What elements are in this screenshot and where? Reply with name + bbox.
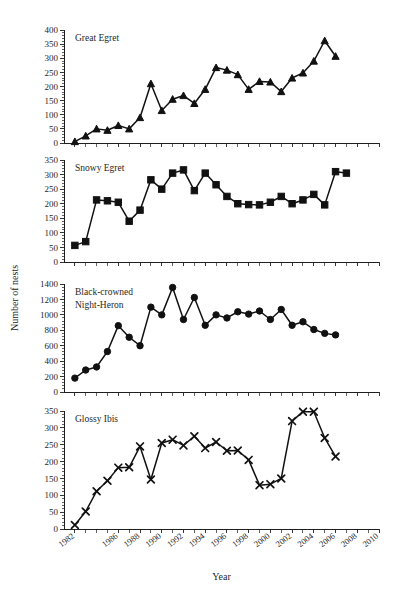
data-point-marker xyxy=(104,348,110,354)
data-point-marker xyxy=(136,114,143,121)
y-tick-label: 100 xyxy=(45,228,59,238)
data-point-marker xyxy=(256,308,262,314)
data-point-marker xyxy=(289,74,296,81)
data-point-marker xyxy=(213,312,219,318)
data-point-marker xyxy=(245,311,251,317)
data-point-marker xyxy=(169,170,175,176)
data-point-marker xyxy=(126,334,132,340)
y-axis-title: Number of nests xyxy=(9,265,20,331)
y-tick-label: 350 xyxy=(45,39,59,49)
panel-title-line2: Night-Heron xyxy=(75,300,124,310)
series-line xyxy=(75,170,347,245)
data-point-marker xyxy=(115,322,121,328)
data-point-marker xyxy=(311,191,317,197)
panel-axes xyxy=(64,30,379,143)
data-point-marker xyxy=(213,182,219,188)
data-point-marker xyxy=(82,132,89,139)
y-tick-label: 350 xyxy=(45,155,59,165)
y-tick-label: 200 xyxy=(45,457,59,467)
x-tick-label: 2004 xyxy=(295,530,315,549)
y-tick-label: 300 xyxy=(45,423,59,433)
y-tick-label: 150 xyxy=(45,96,59,106)
y-tick-label: 1400 xyxy=(40,279,59,289)
y-tick-label: 150 xyxy=(45,213,59,223)
panel-axes xyxy=(64,411,379,529)
data-point-marker xyxy=(104,198,110,204)
data-point-marker xyxy=(343,170,349,176)
data-point-marker xyxy=(300,319,306,325)
data-point-marker xyxy=(148,177,154,183)
y-tick-label: 0 xyxy=(54,387,59,397)
data-point-marker xyxy=(267,316,273,322)
y-tick-label: 50 xyxy=(49,507,59,517)
data-point-marker xyxy=(148,304,154,310)
y-tick-label: 1200 xyxy=(40,295,59,305)
data-point-marker xyxy=(245,201,251,207)
y-tick-label: 350 xyxy=(45,406,59,416)
series-line xyxy=(75,412,336,525)
y-tick-label: 300 xyxy=(45,53,59,63)
data-point-marker xyxy=(278,306,284,312)
nesting-trends-multi-panel-chart: 050100150200250300350400Great Egret05010… xyxy=(0,0,414,597)
y-tick-label: 400 xyxy=(45,25,59,35)
data-point-marker xyxy=(224,315,230,321)
panel-title: Great Egret xyxy=(75,33,119,43)
x-tick-label: 2000 xyxy=(252,531,272,549)
data-point-marker xyxy=(71,138,78,145)
x-tick-label: 1992 xyxy=(165,531,185,549)
data-point-marker xyxy=(256,202,262,208)
data-point-marker xyxy=(202,170,208,176)
data-point-marker xyxy=(126,218,132,224)
panel-snowy-egret: 050100150200250300350Snowy Egret xyxy=(45,155,380,267)
data-point-marker xyxy=(321,202,327,208)
x-tick-label: 1990 xyxy=(143,531,163,549)
figure-container: 050100150200250300350400Great Egret05010… xyxy=(0,0,414,597)
x-tick-label: 2006 xyxy=(317,530,337,549)
data-point-marker xyxy=(267,199,273,205)
data-point-marker xyxy=(191,187,197,193)
data-point-marker xyxy=(235,309,241,315)
data-point-marker xyxy=(159,312,165,318)
y-tick-label: 150 xyxy=(45,474,59,484)
data-point-marker xyxy=(321,37,328,44)
data-point-marker xyxy=(235,201,241,207)
y-tick-label: 800 xyxy=(45,325,59,335)
data-point-marker xyxy=(278,193,284,199)
data-point-marker xyxy=(332,168,338,174)
data-point-marker xyxy=(115,122,122,129)
data-point-marker xyxy=(311,326,317,332)
data-point-marker xyxy=(159,186,165,192)
data-point-marker xyxy=(169,284,175,290)
panel-title: Glossy Ibis xyxy=(75,414,118,424)
data-point-marker xyxy=(72,375,78,381)
y-tick-label: 50 xyxy=(49,243,59,253)
data-point-marker xyxy=(202,86,209,93)
data-point-marker xyxy=(180,167,186,173)
data-point-marker xyxy=(202,322,208,328)
y-tick-label: 250 xyxy=(45,440,59,450)
y-tick-label: 200 xyxy=(45,82,59,92)
data-point-marker xyxy=(137,207,143,213)
data-point-marker xyxy=(115,199,121,205)
y-tick-label: 200 xyxy=(45,199,59,209)
y-tick-label: 300 xyxy=(45,170,59,180)
y-tick-label: 0 xyxy=(54,524,59,534)
data-point-marker xyxy=(180,316,186,322)
x-tick-label: 1998 xyxy=(230,531,250,549)
data-point-marker xyxy=(212,64,219,71)
y-tick-label: 250 xyxy=(45,68,59,78)
data-point-marker xyxy=(137,343,143,349)
y-tick-label: 0 xyxy=(54,138,59,148)
y-tick-label: 100 xyxy=(45,110,59,120)
data-point-marker xyxy=(289,201,295,207)
panel-black-crowned-night-heron: 0200400600800100012001400Black-crownedNi… xyxy=(40,279,379,397)
panel-glossy-ibis: 050100150200250300350Glossy Ibis xyxy=(45,406,380,534)
y-tick-label: 1000 xyxy=(40,310,59,320)
panel-title: Snowy Egret xyxy=(75,163,125,173)
x-tick-label: 1982 xyxy=(56,531,76,549)
x-tick-label: 1994 xyxy=(187,530,207,549)
data-point-marker xyxy=(310,57,317,64)
data-point-marker xyxy=(191,294,197,300)
y-tick-label: 100 xyxy=(45,490,59,500)
y-tick-label: 50 xyxy=(49,124,59,134)
